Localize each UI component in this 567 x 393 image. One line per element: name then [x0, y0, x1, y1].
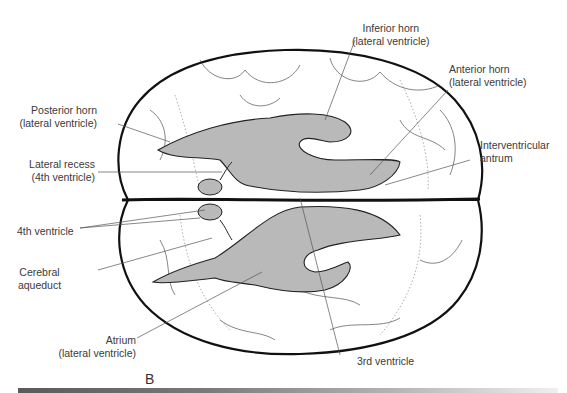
- label-posterior-horn-line2: (lateral ventricle): [15, 117, 97, 130]
- label-third-ventricle: 3rd ventricle: [357, 355, 414, 368]
- label-fourth-ventricle: 4th ventricle: [17, 225, 74, 238]
- label-fourth-ventricle-line1: 4th ventricle: [17, 225, 74, 238]
- label-inferior-horn: Inferior horn (lateral ventricle): [352, 22, 430, 47]
- label-anterior-horn: Anterior horn (lateral ventricle): [449, 63, 527, 88]
- label-interventricular-antrum-line2: antrum: [480, 152, 549, 165]
- label-posterior-horn-line1: Posterior horn: [15, 104, 97, 117]
- label-atrium: Atrium (lateral ventricle): [52, 334, 136, 359]
- bottom-gradient-bar: [18, 388, 558, 393]
- label-cerebral-aqueduct-line1: Cerebral: [17, 266, 62, 279]
- longitudinal-fissure: [122, 199, 480, 200]
- label-lateral-recess-line2: (4th ventricle): [15, 171, 95, 184]
- panel-letter: B: [145, 371, 154, 387]
- label-posterior-horn: Posterior horn (lateral ventricle): [15, 104, 97, 129]
- label-lateral-recess: Lateral recess (4th ventricle): [15, 158, 95, 183]
- label-anterior-horn-line1: Anterior horn: [449, 63, 527, 76]
- label-atrium-line2: (lateral ventricle): [52, 347, 136, 360]
- label-interventricular-antrum: Interventricular antrum: [480, 139, 549, 164]
- label-inferior-horn-line2: (lateral ventricle): [352, 35, 430, 48]
- brain-outline: [118, 50, 482, 354]
- label-atrium-line1: Atrium: [52, 334, 136, 347]
- label-third-ventricle-line1: 3rd ventricle: [357, 355, 414, 368]
- label-lateral-recess-line1: Lateral recess: [15, 158, 95, 171]
- label-cerebral-aqueduct-line2: aqueduct: [17, 279, 62, 292]
- label-interventricular-antrum-line1: Interventricular: [480, 139, 549, 152]
- label-cerebral-aqueduct: Cerebral aqueduct: [17, 266, 62, 291]
- label-anterior-horn-line2: (lateral ventricle): [449, 76, 527, 89]
- label-inferior-horn-line1: Inferior horn: [352, 22, 430, 35]
